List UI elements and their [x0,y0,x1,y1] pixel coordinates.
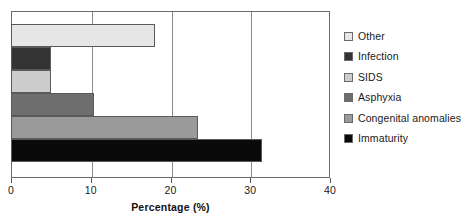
bar-chart: 010203040 Percentage (%) OtherInfectionS… [0,0,470,222]
legend-label: Asphyxia [358,92,401,103]
bar-immaturity [11,139,262,162]
bar-sids [11,70,51,93]
x-tick-label: 0 [0,184,26,196]
legend-label: Congenital anomalies [358,113,461,124]
x-tick-mark [330,178,331,183]
legend-swatch-icon [344,52,353,61]
x-tick-label: 40 [315,184,345,196]
legend-swatch-icon [344,73,353,82]
legend-swatch-icon [344,114,353,123]
bar-asphyxia [11,93,94,116]
legend-item-immaturity[interactable]: Immaturity [344,133,408,145]
x-tick-mark [91,178,92,183]
legend-swatch-icon [344,134,353,143]
bar-infection [11,47,51,70]
legend-label: SIDS [358,72,383,83]
bars-layer [11,11,330,178]
legend-item-other[interactable]: Other [344,30,385,42]
legend-swatch-icon [344,32,353,41]
legend-item-sids[interactable]: SIDS [344,71,383,83]
x-tick-label: 30 [235,184,265,196]
bar-congenital-anomalies [11,116,198,139]
x-tick-label: 20 [156,184,186,196]
x-axis-title: Percentage (%) [11,201,330,213]
x-tick-mark [171,178,172,183]
x-tick-label: 10 [76,184,106,196]
legend-item-asphyxia[interactable]: Asphyxia [344,92,401,104]
legend-swatch-icon [344,93,353,102]
x-tick-mark [250,178,251,183]
legend-label: Immaturity [358,133,408,144]
legend-item-infection[interactable]: Infection [344,51,399,63]
legend-label: Other [358,31,385,42]
bar-other [11,24,155,47]
legend-label: Infection [358,51,399,62]
x-tick-mark [11,178,12,183]
legend-item-congenital-anomalies[interactable]: Congenital anomalies [344,112,461,124]
